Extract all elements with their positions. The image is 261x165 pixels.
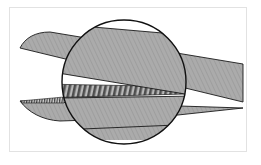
scissor-blades-illustration bbox=[0, 0, 261, 165]
